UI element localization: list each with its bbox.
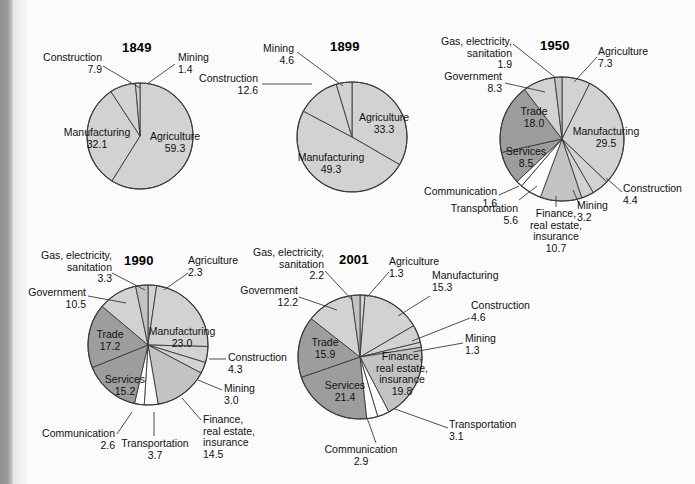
pie-2001-label-mining: Mining 1.3 <box>465 333 521 356</box>
pie-1990-label-trade: Trade 17.2 <box>86 329 134 352</box>
pie-2001-label-trade: Trade 15.9 <box>301 337 349 360</box>
pie-1990-label-services: Services 15.2 <box>96 374 154 397</box>
pie-1899-graphic <box>295 80 409 194</box>
pie-1849-label-agriculture: Agriculture 59.3 <box>139 131 211 154</box>
pie-1990-label-mining: Mining 3.0 <box>224 383 280 406</box>
pie-1990-label-finance: Finance, real estate, insurance 14.5 <box>203 414 277 460</box>
pie-1899-title: 1899 <box>330 39 360 54</box>
pie-1950-title: 1950 <box>540 38 570 53</box>
pie-1849-label-construction: Construction 7.9 <box>10 52 102 75</box>
pie-1990-label-government: Government 10.5 <box>8 287 86 310</box>
pie-2001-label-construction: Construction 4.6 <box>471 300 545 323</box>
pie-1950-label-communication: Communication 1.6 <box>411 186 497 209</box>
pie-1899-label-manufacturing: Manufacturing 49.3 <box>289 152 373 175</box>
pie-1849-title: 1849 <box>122 40 152 55</box>
pie-2001-label-finance: Finance, real estate, insurance 19.8 <box>366 351 438 397</box>
pie-1950-label-government: Government 8.3 <box>422 71 502 94</box>
pie-1950-label-finance: Finance, real estate, insurance 10.7 <box>521 208 591 254</box>
pie-1950-label-trade: Trade 18.0 <box>509 106 559 129</box>
pie-2001-label-transportation: Transportation 3.1 <box>449 419 535 442</box>
pie-1990-label-manufacturing: Manufacturing 23.0 <box>141 326 223 349</box>
pie-1990-title: 1990 <box>124 253 154 268</box>
pie-1990-label-communication: Communication 2.6 <box>27 428 115 451</box>
pie-1950-label-agriculture: Agriculture 7.3 <box>598 46 674 69</box>
pie-2001-label-manufacturing: Manufacturing 15.3 <box>432 270 518 293</box>
pie-2001-label-communication: Communication 2.9 <box>315 444 407 467</box>
pie-1950-label-services: Services 8.5 <box>496 146 556 169</box>
pie-2001-label-government: Government 12.2 <box>218 285 298 308</box>
pie-1899-label-agriculture: Agriculture 33.3 <box>348 112 420 135</box>
pie-1950-label-construction: Construction 4.4 <box>623 183 693 206</box>
figure-page: 1849 Construction 7.9 Mining 1.4 Manufac… <box>0 0 695 484</box>
pie-1990-label-transportation: Transportation 3.7 <box>117 438 193 461</box>
pie-1950-label-gas: Gas, electricity, sanitation 1.9 <box>418 36 512 71</box>
pie-1849-label-manufacturing: Manufacturing 32.1 <box>57 127 137 150</box>
pie-2001-title: 2001 <box>339 252 369 267</box>
pie-2001-label-gas: Gas, electricity, sanitation 2.2 <box>230 247 324 282</box>
pie-1899-label-mining: Mining 4.6 <box>222 43 294 66</box>
pie-1899-label-construction: Construction 12.6 <box>170 73 258 96</box>
pie-1990-label-gas: Gas, electricity, sanitation 3.3 <box>18 250 112 285</box>
pie-1950-label-manufacturing: Manufacturing 29.5 <box>565 126 647 149</box>
pie-1990-label-construction: Construction 4.3 <box>228 352 300 375</box>
